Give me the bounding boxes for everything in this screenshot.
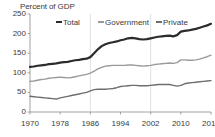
legend-item-total: Total [56,19,80,27]
legend-swatch-icon [156,21,162,23]
legend-label: Total [63,18,80,27]
legend-swatch-icon [56,21,62,23]
series-line-private [30,81,211,99]
chart-figure: Percent of GDP 250200150100500 197019781… [0,0,215,137]
legend-item-government: Government [98,19,149,27]
legend-item-private: Private [156,19,188,27]
legend-label: Government [105,18,149,27]
series-line-government [30,55,211,81]
legend-label: Private [163,18,188,27]
legend-swatch-icon [98,21,104,23]
